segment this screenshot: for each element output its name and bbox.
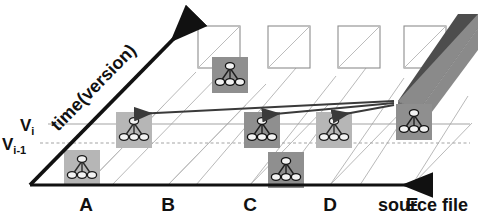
graph-icon-e-vi <box>316 112 352 148</box>
graph-icons <box>64 57 432 188</box>
graph-icon-a-old <box>64 150 100 186</box>
x-tick-a: A <box>79 194 93 215</box>
version-label-vi: Vi <box>20 116 34 137</box>
diagram-canvas: time(version) source file A B C D E Vi V… <box>0 0 478 219</box>
graph-icon-d-old <box>268 152 304 188</box>
graph-icon-b-vi <box>116 112 152 148</box>
x-tick-labels: A B C D E <box>79 194 418 215</box>
version-label-vi-1: Vi-1 <box>2 135 26 156</box>
empty-cell <box>268 26 310 68</box>
graph-icon-f-vi <box>396 104 432 140</box>
empty-cell <box>338 26 380 68</box>
y-axis-time <box>30 18 194 185</box>
x-axis-label: source file <box>378 195 468 215</box>
x-tick-e: E <box>406 194 419 215</box>
x-tick-c: C <box>243 194 257 215</box>
x-tick-d: D <box>323 194 337 215</box>
x-tick-b: B <box>161 194 175 215</box>
version-labels: Vi Vi-1 <box>2 116 34 156</box>
graph-icon-c-new <box>212 57 248 93</box>
graph-icon-d-vi <box>244 112 280 148</box>
